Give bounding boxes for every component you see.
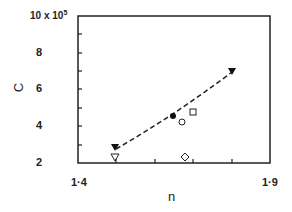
- marker-filled-triangle-2: [228, 68, 236, 75]
- fit-curve: [116, 72, 232, 149]
- y-axis-label: C: [11, 83, 26, 92]
- y-tick-label-2: 2: [36, 156, 42, 168]
- plot-frame: [78, 16, 270, 163]
- y-tick-label-6: 6: [36, 82, 42, 94]
- x-axis-label: n: [168, 189, 175, 204]
- marker-open-square: [190, 109, 196, 115]
- marker-open-triangle: [111, 154, 119, 161]
- y-tick-label-4: 4: [36, 119, 42, 131]
- marker-open-diamond: [181, 153, 189, 161]
- marker-open-circle: [179, 119, 185, 125]
- x-tick-label-right: 1·9: [262, 176, 278, 188]
- y-tick-label-10: 10 x 105: [30, 9, 67, 21]
- scatter-plot: [0, 0, 292, 212]
- marker-filled-circle: [170, 113, 176, 119]
- y-tick-label-8: 8: [36, 46, 42, 58]
- x-tick-label-left: 1·4: [71, 176, 87, 188]
